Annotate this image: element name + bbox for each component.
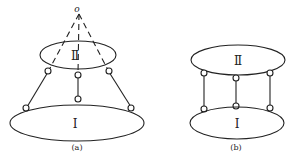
upper-body-label: Ⅱ [234, 54, 242, 68]
joints [201, 70, 273, 112]
diagram-canvas: o Ⅱ Ⅰ (a) Ⅱ [0, 0, 289, 165]
lower-body-label: Ⅰ [235, 117, 240, 131]
apex-label: o [74, 4, 80, 14]
panel-a: o Ⅱ Ⅰ (a) [10, 4, 144, 152]
dashed-lines-to-apex [49, 14, 108, 74]
lower-body-label: Ⅰ [73, 117, 78, 131]
caption-a: (a) [71, 143, 82, 152]
panel-b: Ⅱ Ⅰ (b) [190, 45, 285, 152]
caption-b: (b) [230, 143, 241, 152]
upper-body-label: Ⅱ [71, 49, 79, 63]
